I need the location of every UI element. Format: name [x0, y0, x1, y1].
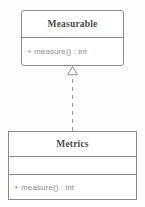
- class-name-metrics: Metrics: [9, 132, 136, 156]
- hollow-triangle-icon: [68, 67, 78, 75]
- class-operation-measurable-measure: + measure() : int: [22, 37, 123, 65]
- uml-class-metrics[interactable]: Metrics + measure() : int: [8, 131, 137, 200]
- class-name-measurable: Measurable: [22, 11, 123, 37]
- class-operation-metrics-measure: + measure() : int: [9, 174, 136, 199]
- class-attributes-metrics: [9, 156, 136, 174]
- diagram-canvas: Measurable + measure() : int Metrics + m…: [0, 0, 145, 207]
- uml-class-measurable[interactable]: Measurable + measure() : int: [21, 10, 124, 66]
